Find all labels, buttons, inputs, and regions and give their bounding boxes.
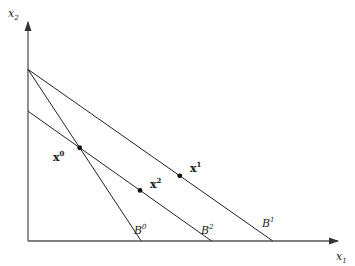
budget-line-b0 xyxy=(28,69,141,241)
point-x0 xyxy=(77,145,82,150)
label-b1: B1 xyxy=(261,216,275,230)
point-x2 xyxy=(138,188,143,193)
budget-line-diagram: x2 x1 B0 B2 B1 x0 x2 x1 xyxy=(0,0,355,266)
budget-line-b1 xyxy=(28,69,273,241)
label-x0: x0 xyxy=(53,149,65,164)
point-x1 xyxy=(177,173,182,178)
y-axis-label: x2 xyxy=(8,7,19,22)
budget-line-b2 xyxy=(28,111,212,241)
label-x1: x1 xyxy=(190,160,202,175)
label-x2: x2 xyxy=(150,176,162,191)
label-b2: B2 xyxy=(200,223,214,237)
label-b0: B0 xyxy=(133,223,147,237)
x-axis-label: x1 xyxy=(336,250,347,265)
